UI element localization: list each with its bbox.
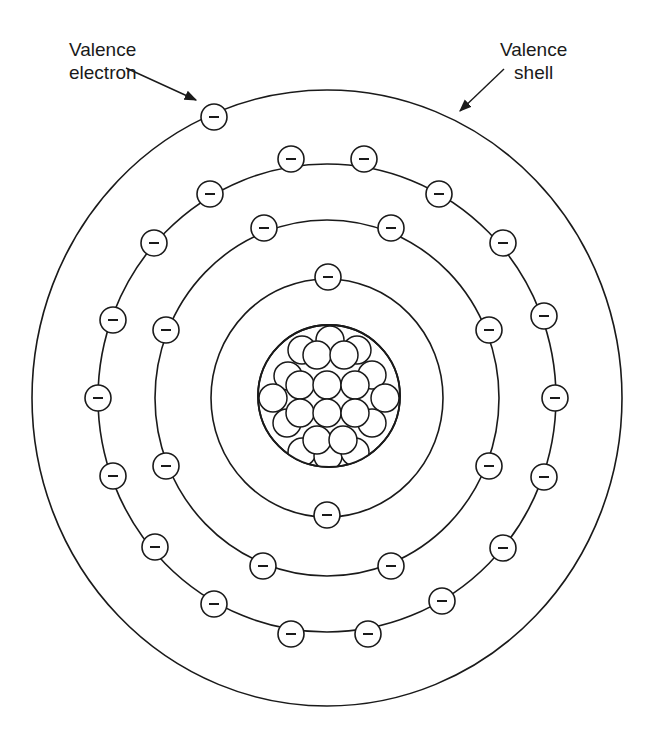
nucleon	[330, 341, 358, 369]
electron	[490, 230, 516, 256]
electron	[315, 264, 341, 290]
nucleon	[341, 399, 369, 427]
electron	[531, 464, 557, 490]
electron	[250, 553, 276, 579]
nucleon	[303, 426, 331, 454]
valence-shell-label-line-2: shell	[500, 61, 567, 84]
electron	[490, 535, 516, 561]
nucleon	[313, 399, 341, 427]
electron	[542, 385, 568, 411]
electron	[476, 317, 502, 343]
electron	[426, 181, 452, 207]
electron	[142, 534, 168, 560]
electron	[314, 502, 340, 528]
nucleon	[371, 384, 399, 412]
electron	[201, 591, 227, 617]
electron	[153, 317, 179, 343]
electron	[278, 146, 304, 172]
nucleon	[313, 371, 341, 399]
valence-electron-label-line-2: electron	[69, 61, 137, 84]
electron	[351, 146, 377, 172]
nucleon	[286, 371, 314, 399]
nucleus	[258, 325, 400, 470]
valence-electron	[201, 104, 227, 130]
electron	[100, 463, 126, 489]
electron	[100, 307, 126, 333]
electron	[197, 181, 223, 207]
valence-shell-label: Valence shell	[500, 38, 567, 84]
nucleon	[329, 426, 357, 454]
electron	[531, 303, 557, 329]
atom-diagram	[0, 0, 648, 734]
nucleon	[259, 384, 287, 412]
electron	[251, 215, 277, 241]
electron	[378, 553, 404, 579]
valence-electron-label-line-1: Valence	[69, 38, 137, 61]
electron	[153, 453, 179, 479]
nucleon	[303, 341, 331, 369]
electron	[278, 621, 304, 647]
valence-shell-arrow-icon	[460, 69, 504, 111]
electron	[355, 621, 381, 647]
valence-shell-label-line-1: Valence	[500, 38, 567, 61]
electron	[141, 230, 167, 256]
valence-electron-label: Valence electron	[69, 38, 137, 84]
electron	[378, 215, 404, 241]
electron	[429, 588, 455, 614]
electron	[476, 453, 502, 479]
nucleon	[341, 371, 369, 399]
electron	[85, 385, 111, 411]
nucleon	[286, 399, 314, 427]
